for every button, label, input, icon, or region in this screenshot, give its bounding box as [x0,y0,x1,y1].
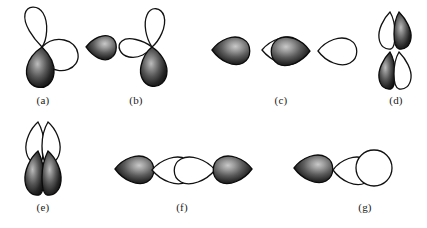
panel-label-c: (c) [275,94,288,106]
panel-e-diagram [25,122,61,195]
panel-label-a: (a) [37,94,50,106]
panel-label-b: (b) [129,94,142,106]
panel-label-d: (d) [389,94,402,106]
figure-background [0,0,427,228]
panel-label-e: (e) [37,201,50,213]
panel-f-diagram [115,156,252,184]
orbital-overlap-figure [0,0,427,228]
panel-label-f: (f) [176,201,188,213]
panel-c-diagram [212,37,357,66]
panel-label-g: (g) [358,201,371,213]
lobe-g-light-circle [356,150,392,186]
